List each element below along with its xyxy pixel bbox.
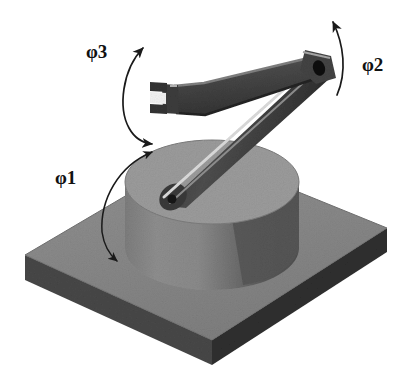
joint-label-phi1-text: φ1 [55,167,76,188]
phi2-rotation-arrow [333,22,343,95]
gripper-slot [150,92,166,104]
joint-label-phi2-text: φ2 [362,54,383,75]
joint-label-phi1: φ1 [55,168,76,187]
shoulder-pivot-hole [168,195,177,204]
joint-label-phi2: φ2 [362,55,383,74]
robot-arm-illustration [0,0,412,386]
gripper-prong-upper [150,82,167,92]
joint-label-phi3: φ3 [86,42,107,61]
phi3-rotation-arrow [123,48,152,144]
fork-gripper [150,82,179,114]
gripper-prong-lower [150,104,167,114]
robot-arm-figure: φ3 φ2 φ1 [0,0,412,386]
joint-label-phi3-text: φ3 [86,41,107,62]
